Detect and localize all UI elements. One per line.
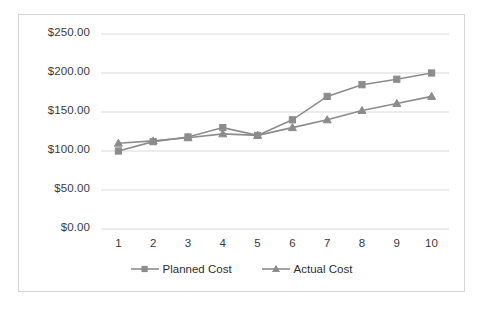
legend-label: Actual Cost [294, 263, 353, 275]
x-axis-tick-label: 4 [208, 237, 238, 249]
y-axis-tick-label: $150.00 [48, 104, 90, 116]
x-axis-tick-label: 5 [243, 237, 273, 249]
legend-label: Planned Cost [163, 263, 232, 275]
data-point-marker [115, 148, 121, 154]
y-axis-tick-label: $250.00 [48, 26, 90, 38]
x-axis-tick-label: 8 [347, 237, 377, 249]
x-axis-tick-label: 9 [382, 237, 412, 249]
x-axis-tick-label: 2 [138, 237, 168, 249]
chart-container: Planned CostActual Cost $0.00$50.00$100.… [18, 14, 465, 292]
data-point-marker [324, 93, 330, 99]
series-line [118, 96, 431, 143]
x-axis-tick-label: 10 [417, 237, 447, 249]
x-axis-tick-label: 7 [312, 237, 342, 249]
data-point-marker [289, 117, 295, 123]
y-axis-tick-label: $100.00 [48, 143, 90, 155]
legend-square-marker-icon [131, 263, 159, 275]
data-point-marker [429, 70, 435, 76]
data-point-marker [428, 92, 436, 99]
data-point-marker [359, 82, 365, 88]
data-point-marker [394, 76, 400, 82]
y-axis-tick-label: $50.00 [54, 182, 90, 194]
y-axis-tick-label: $0.00 [61, 221, 90, 233]
legend-entry-1[interactable]: Planned Cost [131, 263, 232, 275]
x-axis-tick-label: 6 [277, 237, 307, 249]
x-axis-tick-label: 3 [173, 237, 203, 249]
series-2 [114, 92, 435, 146]
legend-entry-2[interactable]: Actual Cost [262, 263, 353, 275]
y-axis-tick-label: $200.00 [48, 65, 90, 77]
chart-legend: Planned CostActual Cost [19, 263, 464, 275]
x-axis-tick-label: 1 [103, 237, 133, 249]
legend-triangle-marker-icon [262, 263, 290, 275]
